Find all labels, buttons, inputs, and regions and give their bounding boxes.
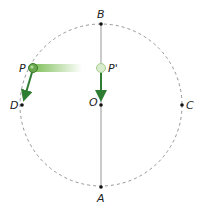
arrow-P-velocity [25,69,33,96]
point-B [99,22,103,26]
label-P: P [19,62,26,75]
label-B: B [97,8,105,21]
ball-P-prime [97,64,106,73]
label-P-prime: P' [108,62,118,75]
label-C: C [186,99,194,112]
point-A [99,185,103,189]
label-D: D [10,99,18,112]
point-D [20,103,24,107]
projection-trail [36,64,82,72]
circular-motion-projection-diagram: B A C D O P P' [0,0,202,212]
ball-P-highlight [30,65,33,68]
point-C [180,103,184,107]
label-O: O [89,96,98,109]
point-O [99,103,103,107]
label-A: A [96,192,105,205]
